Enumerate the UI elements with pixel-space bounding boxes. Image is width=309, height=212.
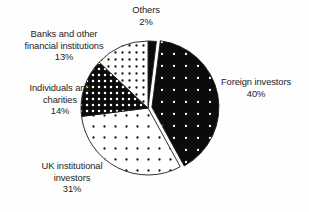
slice-label-uk-name-line1: UK institutional — [14, 160, 130, 172]
slice-label-uk-institutional: UK institutional investors 31% — [14, 160, 130, 195]
slice-label-individuals-percent: 14% — [2, 105, 118, 117]
slice-label-banks-percent: 13% — [2, 51, 126, 63]
slice-label-banks-name-line2: financial institutions — [2, 40, 126, 52]
slice-label-others: Others 2% — [103, 4, 189, 27]
slice-label-uk-percent: 31% — [14, 183, 130, 195]
slice-label-individuals-name-line2: charities — [2, 94, 118, 106]
slice-label-others-name: Others — [103, 4, 189, 16]
slice-label-individuals-name-line1: Individuals and — [2, 82, 118, 94]
slice-label-uk-name-line2: investors — [14, 172, 130, 184]
slice-label-foreign-investors: Foreign investors 40% — [204, 76, 308, 99]
slice-label-individuals: Individuals and charities 14% — [2, 82, 118, 117]
slice-label-banks-name-line1: Banks and other — [2, 28, 126, 40]
slice-label-foreign-percent: 40% — [204, 88, 308, 100]
slice-label-foreign-name: Foreign investors — [204, 76, 308, 88]
pie-chart-figure: Others 2% Banks and other financial inst… — [0, 0, 309, 212]
slice-label-others-percent: 2% — [103, 16, 189, 28]
slice-label-banks: Banks and other financial institutions 1… — [2, 28, 126, 63]
